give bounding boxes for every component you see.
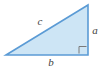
right-triangle-figure: c a b <box>0 0 107 70</box>
label-hypotenuse-c: c <box>38 15 43 27</box>
label-vertical-leg-a: a <box>92 24 98 36</box>
triangle-shape <box>6 5 88 55</box>
label-base-leg-b: b <box>48 56 54 68</box>
triangle-diagram-svg: c a b <box>0 0 107 70</box>
